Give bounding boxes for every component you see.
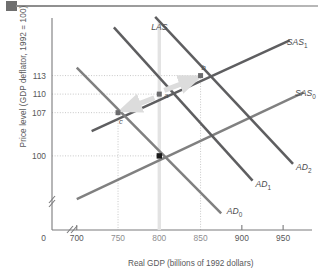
point-marker-origin-eq	[157, 153, 162, 158]
x-axis-title: Real GDP (billions of 1992 dollars)	[128, 259, 253, 268]
x-tick-label-800: 800	[146, 233, 172, 243]
x-tick-label-950: 950	[270, 233, 296, 243]
y-tick-label-110: 110	[20, 89, 46, 99]
curve-group	[77, 17, 304, 230]
y-axis-title: Price level (GDP deflator, 1992 = 100)	[19, 0, 28, 162]
x-tick-label-900: 900	[229, 233, 255, 243]
curve-label-SAS1: SAS1	[287, 37, 308, 49]
point-marker-a	[157, 92, 162, 97]
y-tick-label-107: 107	[20, 108, 46, 118]
curve-label-AD1: AD1	[256, 179, 272, 191]
x-tick-label-850: 850	[188, 233, 214, 243]
point-label-a: a	[164, 91, 168, 100]
x-tick-label-750: 750	[105, 233, 131, 243]
curve-label-LAS: LAS	[151, 22, 167, 32]
curve-AD2	[155, 17, 293, 164]
header-rule-divider	[16, 5, 318, 7]
point-label-c: c	[119, 117, 123, 126]
curve-label-AD0: AD0	[227, 206, 243, 218]
point-marker-b	[198, 73, 203, 78]
point-label-b: b	[202, 63, 206, 72]
x-tick-label-700: 700	[64, 233, 90, 243]
axis-group	[49, 18, 312, 233]
curve-label-SAS0: SAS0	[295, 88, 316, 100]
as-ad-chart-figure: Price level (GDP deflator, 1992 = 100) R…	[0, 12, 318, 278]
curve-label-AD2: AD2	[296, 162, 312, 174]
page-header-bar	[0, 0, 318, 12]
y-tick-label-113: 113	[20, 71, 46, 81]
y-tick-label-100: 100	[20, 151, 46, 161]
axis-origin-label: 0	[20, 233, 46, 243]
point-marker-c	[116, 110, 121, 115]
